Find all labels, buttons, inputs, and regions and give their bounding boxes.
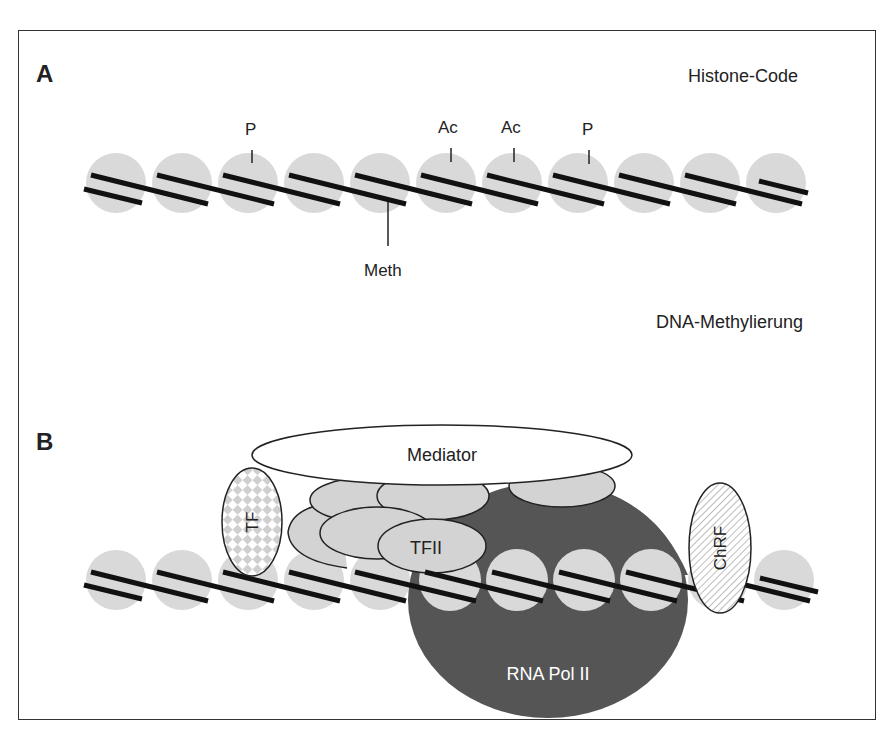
mod-acetyl-1: Ac — [438, 118, 458, 137]
mediator-label: Mediator — [407, 445, 477, 465]
chrf-label: ChRF — [711, 526, 730, 570]
mod-acetyl-2: Ac — [501, 118, 521, 137]
panel-b: B TFII — [36, 425, 818, 718]
mod-methyl: Meth — [364, 261, 402, 280]
panel-a: A Histone-Code DNA-Methylierung — [36, 60, 808, 332]
rna-pol-ii-label: RNA Pol II — [506, 664, 589, 684]
panel-a-letter: A — [36, 60, 53, 87]
mod-phospho-1: P — [245, 120, 256, 139]
tf-label: TF — [243, 512, 262, 533]
tfii-label: TFII — [410, 538, 442, 558]
mod-phospho-2: P — [582, 120, 593, 139]
histone-code-label: Histone-Code — [688, 66, 798, 86]
panel-b-letter: B — [36, 428, 53, 455]
dna-methylation-label: DNA-Methylierung — [656, 312, 803, 332]
figure-canvas: A Histone-Code DNA-Methylierung — [0, 0, 894, 732]
